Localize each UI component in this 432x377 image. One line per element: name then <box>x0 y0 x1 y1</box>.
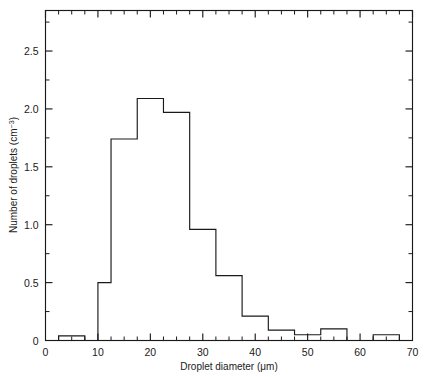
y-axis-title-superscript: −3 <box>7 120 16 128</box>
histogram-bars <box>59 99 400 341</box>
plot-frame <box>46 11 413 341</box>
y-tick-label: 2.0 <box>24 103 39 115</box>
y-axis-title: Number of droplets (cm−3) <box>7 117 20 233</box>
y-axis-major-ticks <box>46 51 413 283</box>
x-axis-tick-labels: 010203040506070 <box>43 346 419 358</box>
chart-canvas: 010203040506070 00.51.01.52.02.5 Droplet… <box>0 0 432 377</box>
axes-box <box>46 11 413 341</box>
y-tick-label: 1.0 <box>24 219 39 231</box>
y-axis-title-base: Number of droplets (cm <box>8 129 19 233</box>
y-tick-label: 1.5 <box>24 161 39 173</box>
x-tick-label: 20 <box>145 346 157 358</box>
x-tick-label: 50 <box>302 346 314 358</box>
x-tick-label: 40 <box>249 346 261 358</box>
x-tick-label: 30 <box>197 346 209 358</box>
y-axis-title-group: Number of droplets (cm−3) <box>7 117 20 233</box>
histogram-outline <box>59 99 400 341</box>
y-axis-tick-labels: 00.51.01.52.02.5 <box>24 45 39 346</box>
y-axis-minor-ticks <box>46 22 413 311</box>
x-axis-major-ticks <box>46 11 413 341</box>
y-tick-label: 0 <box>33 335 39 347</box>
x-tick-label: 10 <box>92 346 104 358</box>
x-axis-minor-ticks <box>59 11 400 341</box>
y-axis-title-tail: ) <box>8 117 19 120</box>
x-tick-label: 70 <box>407 346 419 358</box>
x-tick-label: 60 <box>354 346 366 358</box>
x-tick-label: 0 <box>43 346 49 358</box>
histogram-figure: 010203040506070 00.51.01.52.02.5 Droplet… <box>0 0 432 377</box>
y-tick-label: 0.5 <box>24 277 39 289</box>
x-axis-title: Droplet diameter (μm) <box>180 361 277 372</box>
y-tick-label: 2.5 <box>24 45 39 57</box>
